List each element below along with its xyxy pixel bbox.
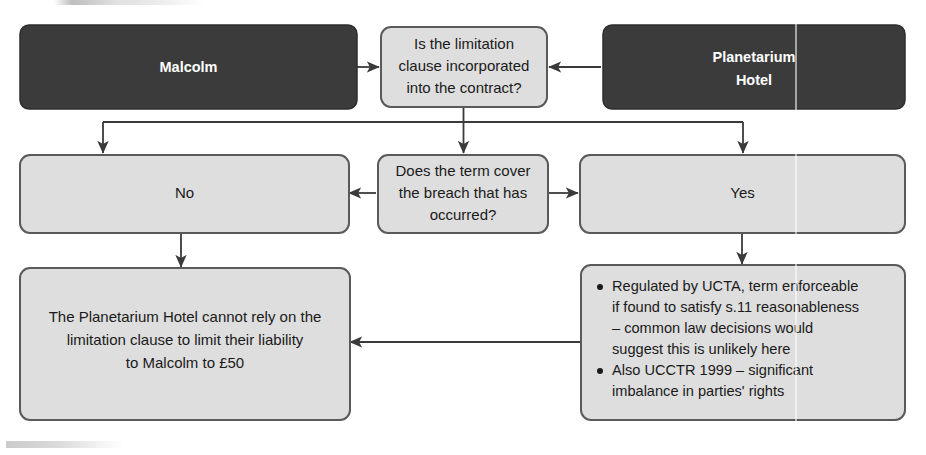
- node-party-defendant-line1: Planetarium: [713, 49, 796, 65]
- node-question-incorporation-line1: Is the limitation: [414, 35, 514, 52]
- node-outcome-conclusion-line3: to Malcolm to £50: [126, 354, 244, 371]
- statutory-bullet-0-line-2: – common law decisions would: [612, 320, 813, 336]
- node-answer-yes-label: Yes: [730, 184, 754, 201]
- node-question-incorporation[interactable]: Is the limitation clause incorporated in…: [381, 27, 547, 107]
- node-party-defendant[interactable]: Planetarium Hotel: [603, 25, 905, 109]
- node-question-coverage[interactable]: Does the term cover the breach that has …: [378, 155, 548, 233]
- node-outcome-conclusion-line1: The Planetarium Hotel cannot rely on the: [49, 308, 322, 325]
- node-outcome-conclusion-line2: limitation clause to limit their liabili…: [67, 331, 304, 348]
- node-outcome-statutory[interactable]: Regulated by UCTA, term enforceable if f…: [581, 265, 905, 420]
- node-question-coverage-line1: Does the term cover: [395, 162, 530, 179]
- node-answer-no[interactable]: No: [20, 155, 349, 233]
- node-party-claimant-label: Malcolm: [159, 59, 217, 75]
- statutory-bullet-1-line-1: imbalance in parties' rights: [612, 383, 784, 399]
- node-question-incorporation-line2: clause incorporated: [399, 57, 530, 74]
- node-party-defendant-line2: Hotel: [736, 72, 772, 88]
- statutory-bullet-0-line-3: suggest this is unlikely here: [612, 341, 790, 357]
- node-answer-yes[interactable]: Yes: [580, 155, 905, 233]
- node-question-coverage-line3: occurred?: [430, 206, 497, 223]
- flowchart-svg: Malcolm Is the limitation clause incorpo…: [0, 0, 926, 455]
- flowchart-canvas: Malcolm Is the limitation clause incorpo…: [0, 0, 926, 455]
- node-party-claimant[interactable]: Malcolm: [20, 25, 357, 109]
- statutory-bullet-0-line-1: if found to satisfy s.11 reasonableness: [612, 299, 859, 315]
- node-question-coverage-line2: the breach that has: [399, 184, 527, 201]
- statutory-bullet-0-line-0: Regulated by UCTA, term enforceable: [612, 278, 858, 294]
- node-question-incorporation-line3: into the contract?: [406, 79, 521, 96]
- node-answer-no-label: No: [175, 184, 194, 201]
- bullet-marker-icon: [597, 284, 603, 290]
- statutory-bullet-1-line-0: Also UCCTR 1999 – significant: [612, 362, 813, 378]
- node-party-defendant-box: [603, 25, 905, 109]
- bullet-marker-icon: [597, 368, 603, 374]
- node-outcome-conclusion[interactable]: The Planetarium Hotel cannot rely on the…: [20, 268, 350, 420]
